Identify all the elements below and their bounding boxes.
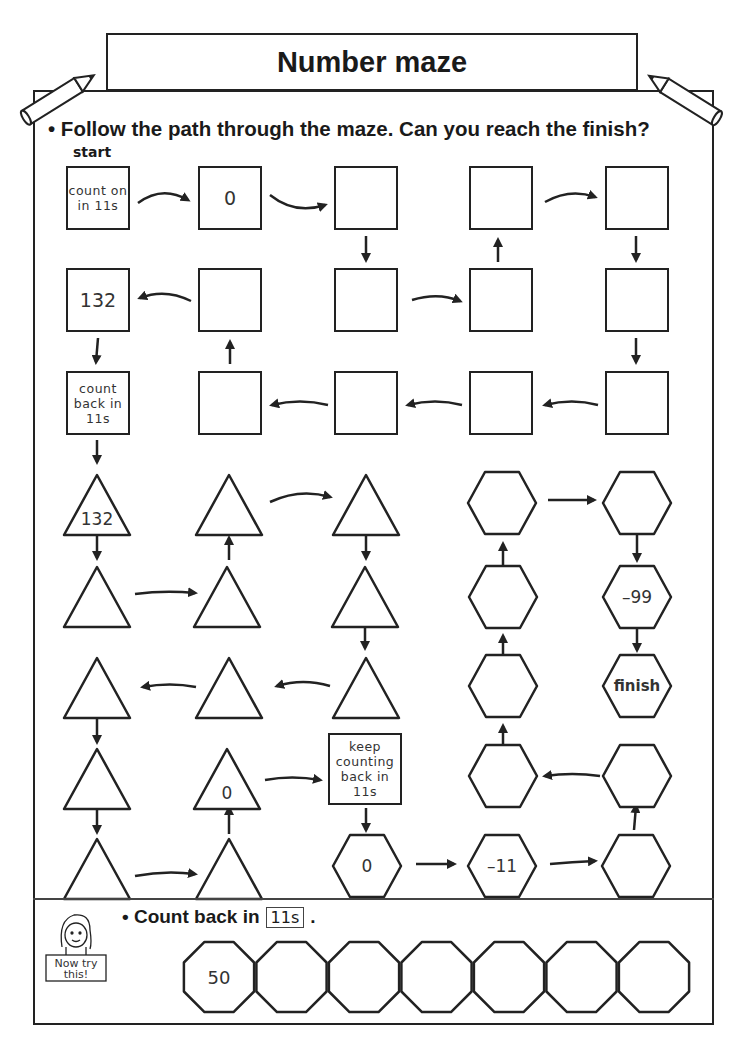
octagon-cell[interactable] [262, 962, 322, 992]
octagon-cell[interactable] [479, 962, 539, 992]
octagon-sequence [0, 0, 739, 1040]
octagon-cell[interactable] [334, 962, 394, 992]
octagon-cell[interactable] [624, 962, 684, 992]
octagon-cell[interactable] [552, 962, 612, 992]
octagon-cell[interactable] [407, 962, 467, 992]
octagon-cell: 50 [189, 962, 249, 992]
